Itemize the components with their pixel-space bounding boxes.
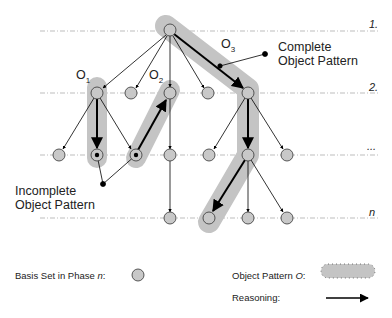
node bbox=[125, 87, 137, 99]
pattern-label-o1-base: O bbox=[76, 68, 86, 82]
edge bbox=[251, 160, 283, 212]
phase-label-n: n bbox=[369, 206, 375, 219]
node bbox=[203, 149, 215, 161]
node bbox=[203, 212, 215, 224]
legend-object-pattern-icon bbox=[321, 264, 375, 278]
incomplete-object-pattern-label: Incomplete Object Pattern bbox=[15, 184, 95, 212]
legend-object-pattern-var: O bbox=[295, 270, 302, 281]
node bbox=[242, 87, 254, 99]
legend-basis-set-label: Basis Set in Phase n: bbox=[15, 269, 105, 282]
incomplete-callout-line bbox=[103, 155, 136, 184]
node bbox=[164, 149, 176, 161]
legend-reasoning-label: Reasoning: bbox=[232, 291, 280, 304]
legend-basis-set-icon bbox=[132, 269, 144, 281]
node bbox=[202, 87, 214, 99]
node bbox=[164, 212, 176, 224]
legend-object-pattern-text: Object Pattern bbox=[232, 270, 295, 281]
node bbox=[242, 149, 254, 161]
phase-label-2: 2. bbox=[369, 81, 378, 94]
incomplete-line1: Incomplete bbox=[15, 184, 95, 198]
node-root bbox=[164, 24, 176, 36]
legend-object-pattern-suffix: : bbox=[303, 270, 306, 281]
incomplete-line2: Object Pattern bbox=[15, 198, 95, 212]
complete-object-pattern-label: Complete Object Pattern bbox=[278, 40, 358, 68]
incomplete-callout-dot bbox=[101, 182, 106, 187]
node bbox=[164, 87, 176, 99]
complete-line1: Complete bbox=[278, 40, 358, 54]
legend-object-pattern-label: Object Pattern O: bbox=[232, 269, 305, 282]
pattern-o3 bbox=[166, 26, 248, 222]
complete-callout-dot bbox=[263, 52, 268, 57]
pattern-label-o3: O3 bbox=[221, 37, 235, 57]
legend-basis-set-text: Basis Set in Phase bbox=[15, 270, 97, 281]
node bbox=[281, 212, 293, 224]
node bbox=[91, 87, 103, 99]
phase-label-1: 1. bbox=[369, 18, 378, 31]
pattern-label-o1: O1 bbox=[76, 68, 90, 88]
node-marker-dot bbox=[134, 153, 138, 157]
pattern-label-o2-base: O bbox=[149, 68, 159, 82]
pattern-label-o1-sub: 1 bbox=[86, 76, 90, 85]
complete-line2: Object Pattern bbox=[278, 54, 358, 68]
node-marker-dot bbox=[95, 153, 99, 157]
node bbox=[281, 149, 293, 161]
pattern-label-o2: O2 bbox=[149, 68, 163, 88]
pattern-label-o3-base: O bbox=[221, 37, 231, 51]
pattern-label-o2-sub: 2 bbox=[159, 76, 163, 85]
node bbox=[242, 212, 254, 224]
phase-label-3: ... bbox=[367, 140, 376, 153]
pattern-label-o3-sub: 3 bbox=[231, 45, 235, 54]
node bbox=[53, 149, 65, 161]
legend-basis-set-suffix: : bbox=[103, 270, 106, 281]
complete-callout-dot-on-edge bbox=[218, 64, 222, 68]
